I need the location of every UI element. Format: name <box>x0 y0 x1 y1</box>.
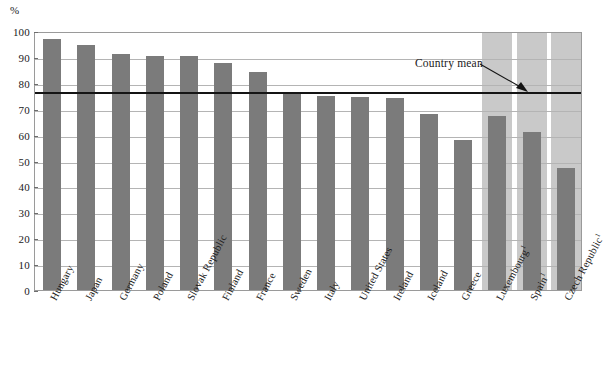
plot-area <box>34 32 582 291</box>
y-axis-tick-mark <box>34 84 38 85</box>
y-axis-tick-mark <box>34 136 38 137</box>
y-axis-tick-mark <box>34 110 38 111</box>
y-axis-tick-label: 80 <box>0 79 30 90</box>
footnote-marker: 1 <box>593 232 602 239</box>
bar <box>454 140 472 290</box>
y-axis-tick-label: 90 <box>0 53 30 64</box>
bar <box>488 116 506 290</box>
y-axis-tick-mark <box>34 187 38 188</box>
bar <box>523 132 541 290</box>
y-axis-tick-mark <box>34 239 38 240</box>
y-axis-unit-label: % <box>10 4 19 16</box>
y-axis-tick-label: 100 <box>0 27 30 38</box>
bar <box>112 54 130 290</box>
country-mean-line <box>35 92 581 94</box>
y-axis-tick-label: 50 <box>0 157 30 168</box>
y-axis-tick-label: 40 <box>0 182 30 193</box>
x-axis-tick-labels: HungaryJapanGermanyPolandSlovak Republic… <box>34 293 582 382</box>
bar <box>557 168 575 290</box>
y-axis-tick-label: 70 <box>0 105 30 116</box>
y-axis-tick-label: 10 <box>0 260 30 271</box>
country-mean-annotation-label: Country mean <box>415 57 483 70</box>
y-axis-tick-labels: 1009080706050403020100 <box>0 32 30 291</box>
y-axis-tick-label: 0 <box>0 286 30 297</box>
bar <box>283 94 301 290</box>
bar <box>249 72 267 290</box>
y-axis-tick-label: 20 <box>0 234 30 245</box>
bar <box>77 45 95 290</box>
y-axis-tick-mark <box>34 265 38 266</box>
bar <box>43 39 61 290</box>
bar <box>351 97 369 290</box>
y-axis-tick-mark <box>34 291 38 292</box>
y-axis-tick-label: 30 <box>0 208 30 219</box>
bar <box>317 96 335 290</box>
y-axis-tick-label: 60 <box>0 131 30 142</box>
y-axis-tick-mark <box>34 213 38 214</box>
y-axis-tick-mark <box>34 162 38 163</box>
y-axis-tick-mark <box>34 32 38 33</box>
y-axis-tick-mark <box>34 58 38 59</box>
bar <box>420 114 438 290</box>
